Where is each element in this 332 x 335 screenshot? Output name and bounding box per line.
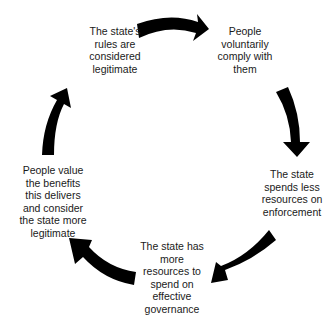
node-value-benefits: People value the benefits this delivers …	[10, 164, 96, 239]
arrow-n3-n4	[211, 230, 276, 283]
arrow-n2-n3	[276, 87, 310, 157]
node-more-resources: The state has more resources to spend on…	[132, 240, 212, 315]
arrow-n4-n5	[69, 238, 136, 285]
arrow-n5-n1	[42, 88, 71, 155]
node-voluntary-compliance: People voluntarily comply with them	[202, 25, 288, 75]
node-less-enforcement: The state spends less resources on enfor…	[252, 168, 332, 218]
cycle-diagram: The state's rules are considered legitim…	[0, 0, 332, 335]
node-rules-legitimate: The state's rules are considered legitim…	[72, 25, 158, 75]
